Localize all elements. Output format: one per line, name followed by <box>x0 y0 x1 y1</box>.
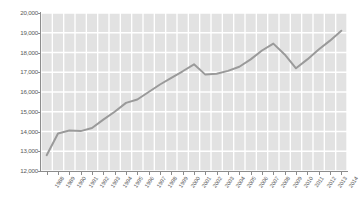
x-tick-label: 1996 <box>144 176 155 189</box>
x-tick-mark <box>58 172 59 175</box>
x-tick-mark <box>273 172 274 175</box>
x-tick-label: 2002 <box>212 176 223 189</box>
x-tick-label: 1988 <box>54 176 65 189</box>
x-tick-label: 1998 <box>167 176 178 189</box>
x-tick-label: 2008 <box>280 176 291 189</box>
x-tick-label: 2000 <box>190 176 201 189</box>
x-tick-label: 2011 <box>314 176 325 189</box>
x-tick-label: 1991 <box>88 176 99 189</box>
x-tick-mark <box>115 172 116 175</box>
x-tick-mark <box>228 172 229 175</box>
x-tick-label: 2003 <box>224 176 235 189</box>
x-tick-label: 1999 <box>178 176 189 189</box>
x-tick-label: 2010 <box>303 176 314 189</box>
y-tick-label: 16,000 <box>2 89 38 95</box>
plot-area <box>41 13 347 171</box>
x-tick-mark <box>319 172 320 175</box>
x-tick-label: 2004 <box>235 176 246 189</box>
x-tick-label: 2012 <box>326 176 337 189</box>
x-tick-label: 1995 <box>133 176 144 189</box>
x-tick-mark <box>239 172 240 175</box>
x-tick-label: 2014 <box>348 176 359 189</box>
data-series-line <box>41 13 347 171</box>
x-tick-mark <box>69 172 70 175</box>
line-chart: 20,00019,00018,00017,00016,00015,00014,0… <box>0 0 359 210</box>
x-tick-mark <box>330 172 331 175</box>
x-tick-label: 1997 <box>156 176 167 189</box>
y-tick-label: 20,000 <box>2 10 38 16</box>
x-tick-mark <box>137 172 138 175</box>
series-line <box>47 31 342 155</box>
x-tick-mark <box>285 172 286 175</box>
x-tick-mark <box>296 172 297 175</box>
x-tick-mark <box>217 172 218 175</box>
x-tick-label: 2001 <box>201 176 212 189</box>
x-tick-mark <box>103 172 104 175</box>
y-tick-label: 12,000 <box>2 168 38 174</box>
x-tick-label: 1992 <box>99 176 110 189</box>
y-tick-label: 17,000 <box>2 69 38 75</box>
x-tick-mark <box>307 172 308 175</box>
x-tick-mark <box>47 172 48 175</box>
x-tick-label: 1994 <box>122 176 133 189</box>
x-tick-label: 1990 <box>76 176 87 189</box>
x-tick-label: 2009 <box>292 176 303 189</box>
y-tick-label: 15,000 <box>2 109 38 115</box>
x-tick-label: 2006 <box>258 176 269 189</box>
x-tick-mark <box>160 172 161 175</box>
y-axis: 20,00019,00018,00017,00016,00015,00014,0… <box>0 0 38 210</box>
x-tick-label: 2013 <box>337 176 348 189</box>
x-tick-mark <box>341 172 342 175</box>
x-tick-mark <box>262 172 263 175</box>
x-tick-mark <box>251 172 252 175</box>
x-tick-mark <box>171 172 172 175</box>
y-tick-label: 19,000 <box>2 30 38 36</box>
x-tick-label: 2007 <box>269 176 280 189</box>
x-tick-mark <box>183 172 184 175</box>
y-tick-label: 13,000 <box>2 148 38 154</box>
x-tick-mark <box>194 172 195 175</box>
y-tick-label: 14,000 <box>2 129 38 135</box>
x-tick-mark <box>81 172 82 175</box>
y-tick-label: 18,000 <box>2 50 38 56</box>
x-tick-label: 1989 <box>65 176 76 189</box>
x-tick-mark <box>205 172 206 175</box>
x-tick-mark <box>149 172 150 175</box>
x-tick-mark <box>92 172 93 175</box>
x-tick-label: 2005 <box>246 176 257 189</box>
x-tick-label: 1993 <box>110 176 121 189</box>
x-tick-mark <box>126 172 127 175</box>
